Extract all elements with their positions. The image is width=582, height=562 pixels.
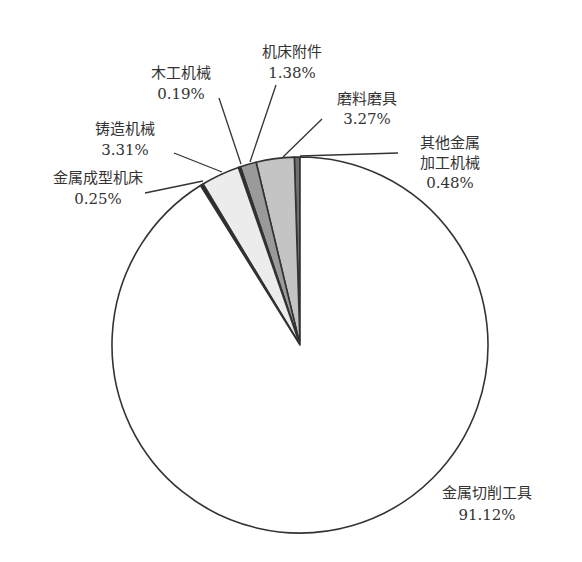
- leader-other-metal: [300, 153, 398, 156]
- label-woodworking-name: 木工机械: [151, 64, 211, 82]
- label-casting-name: 铸造机械: [95, 120, 155, 138]
- label-metal-cutting: 金属切削工具 91.12%: [442, 484, 532, 524]
- pie-slices: [112, 157, 488, 533]
- label-abrasives-name: 磨料磨具: [337, 90, 397, 108]
- leader-woodworking: [219, 98, 241, 164]
- label-other-metal-line2: 加工机械: [420, 154, 480, 172]
- label-abrasives-pct: 3.27%: [343, 110, 391, 128]
- leader-casting: [174, 153, 222, 172]
- label-machine-accessories-name: 机床附件: [262, 43, 322, 61]
- pie-chart: 其他金属 加工机械 0.48% 磨料磨具 3.27% 机床附件 1.38% 木工…: [0, 0, 582, 562]
- label-metal-cutting-name: 金属切削工具: [442, 484, 532, 502]
- label-other-metal-line1: 其他金属: [420, 134, 480, 152]
- pie-slice: [112, 157, 488, 533]
- label-metal-cutting-pct: 91.12%: [458, 506, 515, 524]
- label-other-metal-pct: 0.48%: [426, 174, 474, 192]
- label-machine-accessories-pct: 1.38%: [268, 64, 316, 82]
- label-casting: 铸造机械 3.31%: [95, 120, 155, 159]
- label-woodworking: 木工机械 0.19%: [151, 64, 211, 103]
- leader-machine-accessories: [250, 85, 276, 162]
- label-metal-forming-name: 金属成型机床: [53, 169, 143, 187]
- label-casting-pct: 3.31%: [101, 141, 149, 159]
- label-other-metal: 其他金属 加工机械 0.48%: [420, 134, 480, 192]
- leader-abrasives: [283, 119, 322, 157]
- label-abrasives: 磨料磨具 3.27%: [337, 90, 397, 128]
- label-machine-accessories: 机床附件 1.38%: [262, 43, 322, 82]
- label-woodworking-pct: 0.19%: [157, 85, 205, 103]
- label-metal-forming: 金属成型机床 0.25%: [53, 169, 143, 208]
- label-metal-forming-pct: 0.25%: [74, 190, 122, 208]
